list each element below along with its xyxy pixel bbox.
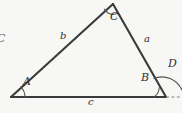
side-label-a: a [144, 34, 150, 44]
vertex-label-a: A [23, 76, 31, 87]
side-label-c: c [88, 97, 94, 107]
vertex-label-b: B [141, 72, 149, 83]
side-label-b: b [60, 31, 66, 41]
vertex-label-c: C [110, 11, 118, 22]
angle-arc-b [154, 87, 159, 97]
exterior-angle-label-d: D [168, 58, 177, 69]
margin-cropped-label: C [0, 33, 5, 44]
geometry-figure: A B C a b c D C [0, 0, 182, 113]
triangle-side-a [113, 4, 166, 97]
